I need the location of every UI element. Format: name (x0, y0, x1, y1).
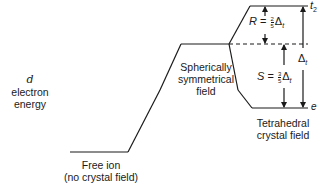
total-delta-subscript: t (305, 59, 307, 66)
t2-label: t2 (310, 0, 317, 13)
free-ion-label: Free ion (no crystal field) (58, 159, 144, 183)
axis-label-line1: electron (8, 86, 52, 98)
r-fraction: 25 (271, 16, 274, 29)
s-delta: Δ (282, 70, 289, 82)
r-equals: = (260, 15, 266, 27)
axis-label: d electron energy (8, 74, 52, 110)
spherical-field-label: Spherically symmetrical field (170, 61, 242, 97)
s-equals: = (267, 70, 273, 82)
spherical-label-line1: Spherically (170, 61, 242, 73)
t2-subscript: 2 (313, 6, 317, 13)
tetrahedral-field-label: Tetrahedral crystal field (243, 117, 322, 141)
s-fraction: 35 (278, 71, 281, 84)
s-variable: S (257, 70, 264, 82)
tetrahedral-label-line2: crystal field (243, 129, 322, 141)
free-ion-label-line1: Free ion (58, 159, 144, 171)
s-numerator: 3 (278, 71, 281, 78)
s-delta-subscript: t (290, 77, 292, 84)
r-equation: R = 25Δt (249, 15, 284, 29)
s-denominator: 5 (278, 78, 281, 84)
free-to-spherical-connector (128, 90, 160, 152)
e-symbol: e (311, 101, 317, 112)
tetrahedral-label-line1: Tetrahedral (243, 117, 322, 129)
spherical-label-line2: symmetrical (170, 73, 242, 85)
total-delta-label: Δt (298, 52, 307, 66)
r-denominator: 5 (271, 23, 274, 29)
axis-label-line2: energy (8, 98, 52, 110)
r-variable: R (249, 15, 257, 27)
e-label: e (311, 101, 317, 112)
s-equation: S = 35Δt (256, 70, 293, 84)
spherical-label-line3: field (170, 85, 242, 97)
r-delta-subscript: t (282, 22, 284, 29)
r-numerator: 2 (271, 16, 274, 23)
d-symbol: d (8, 74, 52, 86)
free-ion-label-line2: (no crystal field) (58, 171, 144, 183)
t2-connector (229, 6, 250, 44)
